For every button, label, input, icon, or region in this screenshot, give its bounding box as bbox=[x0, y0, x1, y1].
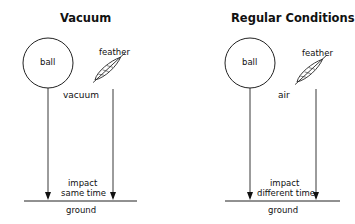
regular-panel-title: Regular Conditions bbox=[231, 11, 355, 25]
ball-arrowhead-icon bbox=[247, 192, 253, 200]
medium-label: air bbox=[278, 90, 290, 100]
vacuum-panel-title: Vacuum bbox=[60, 11, 111, 25]
impact-label: impact bbox=[68, 178, 97, 188]
impact-time-label: different time bbox=[257, 188, 315, 198]
ball-label: ball bbox=[242, 57, 257, 67]
impact-label: impact bbox=[270, 178, 299, 188]
feather-label: feather bbox=[99, 47, 130, 57]
medium-label: vacuum bbox=[63, 90, 99, 100]
ground-label: ground bbox=[66, 205, 96, 215]
feather-icon bbox=[89, 52, 129, 83]
feather-arrowhead-icon bbox=[110, 192, 116, 200]
feather-icon bbox=[291, 54, 331, 85]
feather-label: feather bbox=[302, 48, 333, 58]
impact-time-label: same time bbox=[61, 188, 106, 198]
ball-label: ball bbox=[40, 57, 55, 67]
ground-label: ground bbox=[268, 205, 298, 215]
ball-arrowhead-icon bbox=[45, 192, 51, 200]
